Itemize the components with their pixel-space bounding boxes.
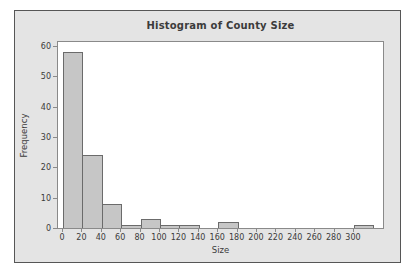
y-tick-label: 40 [25,103,51,112]
x-tick-mark [353,229,354,232]
histogram-bar [102,204,122,228]
plot-area [57,41,384,229]
histogram-bar [82,155,102,228]
x-tick-mark [120,229,121,232]
figure-area: Histogram of County Size Frequency 01020… [14,10,401,263]
histogram-bar [179,225,199,228]
x-tick-mark [295,229,296,232]
y-tick-mark [53,107,57,108]
x-tick-mark [275,229,276,232]
x-tick-label: 300 [341,233,365,242]
y-tick-mark [53,46,57,47]
x-axis-label: Size [57,245,384,255]
x-tick-mark [256,229,257,232]
y-tick-mark [53,76,57,77]
histogram-bar [121,225,141,228]
y-tick-label: 50 [25,72,51,81]
chart-title: Histogram of County Size [57,20,384,31]
y-tick-label: 30 [25,133,51,142]
x-tick-mark [334,229,335,232]
x-tick-mark [101,229,102,232]
histogram-bar [354,225,374,228]
x-tick-mark [237,229,238,232]
x-tick-mark [314,229,315,232]
histogram-bar [218,222,238,228]
y-tick-label: 60 [25,42,51,51]
histogram-bar [63,52,83,228]
x-tick-mark [140,229,141,232]
y-tick-label: 0 [25,224,51,233]
x-tick-mark [178,229,179,232]
screenshot-canvas: Histogram of County Size Frequency 01020… [0,0,415,274]
histogram-bar [141,219,161,228]
x-tick-mark [159,229,160,232]
y-tick-label: 10 [25,194,51,203]
x-tick-mark [198,229,199,232]
x-tick-mark [81,229,82,232]
x-tick-mark [217,229,218,232]
y-tick-mark [53,137,57,138]
y-tick-mark [53,228,57,229]
x-tick-mark [62,229,63,232]
y-tick-label: 20 [25,163,51,172]
y-tick-mark [53,167,57,168]
histogram-bar [160,225,180,228]
y-tick-mark [53,198,57,199]
